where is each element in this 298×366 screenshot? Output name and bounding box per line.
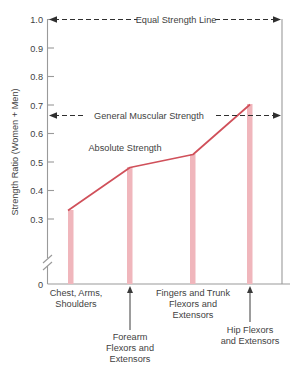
y-axis-title: Strength Ratio (Women + Men) [10,88,20,215]
y-tick-label-0-7: 0.7 [30,101,43,111]
category-label-fingers-line1: Fingers and Trunk [156,288,230,298]
strength-ratio-chart: 1.0 0.9 0.8 0.7 0.6 0.5 0.4 0.3 0 Streng… [0,0,298,366]
category-label-fingers-line2: Flexors and [169,299,217,309]
category-label-chest-line2: Shoulders [55,299,97,309]
category-label-forearm-line3: Extensors [110,354,151,364]
category-label-forearm-line2: Flexors and [106,343,154,353]
bar-fingers-trunk-flexors-extensors [190,154,196,284]
bar-chest-arms-shoulders [68,210,74,284]
bar-hip-flexors-extensors [247,104,253,284]
y-tick-label-0: 0 [38,280,43,290]
bar-forearm-flexors-extensors [127,167,133,284]
y-tick-label-0-6: 0.6 [30,129,43,139]
category-label-hip-line1: Hip Flexors [227,325,274,335]
absolute-strength-label: Absolute Strength [88,143,161,153]
category-label-hip-line2: and Extensors [221,336,280,346]
general-muscular-strength-label: General Muscular Strength [94,111,204,121]
equal-strength-line-label: Equal Strength Line [136,15,217,25]
chart-background [0,0,298,366]
category-label-fingers-line3: Extensors [173,310,214,320]
y-tick-label-1-0: 1.0 [30,15,43,25]
category-label-chest-line1: Chest, Arms, [50,288,103,298]
y-tick-label-0-9: 0.9 [30,44,43,54]
y-tick-label-0-3: 0.3 [30,215,43,225]
y-tick-label-0-8: 0.8 [30,72,43,82]
y-tick-label-0-5: 0.5 [30,158,43,168]
y-tick-label-0-4: 0.4 [30,186,43,196]
category-label-forearm-line1: Forearm [113,332,148,342]
chart-svg: 1.0 0.9 0.8 0.7 0.6 0.5 0.4 0.3 0 Streng… [0,0,298,366]
